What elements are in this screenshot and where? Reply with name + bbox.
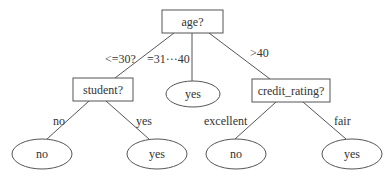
edge-label-fair: fair	[334, 114, 351, 128]
leaf-mid-yes: yes	[166, 81, 220, 107]
decision-tree-diagram: <=30? =31···40 >40 no yes excellent fair…	[0, 0, 391, 181]
edge-label-31-40: =31···40	[147, 52, 190, 66]
leaf-student-yes-label: yes	[149, 147, 165, 161]
leaf-student-no: no	[12, 139, 72, 169]
node-age: age?	[162, 10, 223, 33]
edge-label-excellent: excellent	[204, 114, 248, 128]
node-age-label: age?	[182, 15, 204, 29]
node-credit-rating-label: credit_rating?	[258, 84, 325, 98]
edge-label-gt40: >40	[250, 46, 269, 60]
leaf-student-yes: yes	[127, 139, 187, 169]
leaf-mid-yes-label: yes	[185, 87, 201, 101]
edge-label-le30: <=30?	[105, 52, 136, 66]
node-credit-rating: credit_rating?	[252, 79, 330, 102]
leaf-credit-yes: yes	[322, 139, 382, 169]
leaf-credit-no: no	[206, 139, 266, 169]
leaf-credit-yes-label: yes	[344, 147, 360, 161]
node-student-label: student?	[83, 83, 123, 97]
leaf-student-no-label: no	[36, 147, 48, 161]
leaf-credit-no-label: no	[230, 147, 242, 161]
node-student: student?	[73, 78, 133, 101]
edge-label-student-yes: yes	[136, 114, 152, 128]
edge-label-student-no: no	[53, 114, 65, 128]
